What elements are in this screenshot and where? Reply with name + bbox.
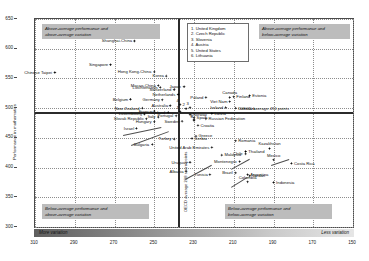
data-point-label: Sweden: [164, 119, 179, 124]
data-point-marker: [244, 152, 247, 155]
data-point-label: Netherlands: [153, 92, 176, 97]
data-point-label: Viet Nam: [210, 99, 227, 104]
data-point-label: Russian Federation: [209, 116, 246, 121]
data-point-marker: [228, 96, 231, 99]
data-point-marker: [232, 95, 235, 98]
gridline-vertical: [353, 19, 354, 227]
y-tick: 400: [0, 164, 13, 169]
gridline-horizontal: [35, 78, 353, 79]
less-variation-label: Less variation: [321, 230, 349, 235]
data-point-marker: [109, 63, 112, 66]
data-point-label: Indonesia: [276, 180, 294, 185]
data-point-label: Chile: [233, 151, 243, 156]
data-point-number: 3: [186, 101, 188, 106]
data-point-label: Australia: [152, 103, 168, 108]
y-tick: 300: [0, 224, 13, 229]
data-point-marker: [246, 180, 249, 183]
data-point-label: Estonia: [252, 93, 266, 98]
x-tick: 190: [261, 240, 285, 245]
data-point-label: Kazakhstan: [259, 141, 281, 146]
x-tick: 310: [22, 240, 46, 245]
gridline-horizontal: [35, 197, 353, 198]
data-point-label: Chinese Taipei: [24, 70, 52, 75]
data-point-label: Costa Rica: [294, 161, 315, 166]
data-point-label: Shanghai-China: [102, 38, 132, 43]
data-point-marker: [220, 153, 223, 156]
gridline-horizontal: [35, 168, 353, 169]
quadrant-top-right: Above-average performance and below-aver…: [259, 24, 350, 39]
data-point-label: Albania: [169, 169, 183, 174]
data-point-label: Denmark: [238, 106, 255, 111]
data-point-label: Iceland: [152, 110, 166, 115]
data-point-label: United Arab Emirates: [169, 145, 209, 150]
x-tick: 210: [221, 240, 245, 245]
y-axis-title: Performance in mathematics: [12, 104, 17, 160]
data-point-label: Korea: [153, 73, 164, 78]
data-point-label: Romania: [238, 138, 255, 143]
plot-area: OECD average 494 points OECD average 238…: [34, 18, 354, 228]
data-point-marker: [133, 39, 136, 42]
quadrant-bottom-right: Below-average performance and below-aver…: [225, 204, 332, 219]
data-point-marker: [129, 98, 132, 101]
y-tick: 550: [0, 75, 13, 80]
data-point-marker: [268, 147, 271, 150]
data-point-number: 1: [176, 105, 178, 110]
data-point-label: Serbia: [195, 136, 207, 141]
numbered-legend: 1. United Kingdom 2. Czech Republic 3. S…: [187, 23, 249, 62]
data-point-marker: [228, 100, 231, 103]
data-point-label: Finland: [236, 94, 250, 99]
data-point-marker: [196, 124, 199, 127]
data-point-marker: [204, 96, 207, 99]
data-point-label: Thailand: [248, 149, 264, 154]
x-tick: 150: [340, 240, 364, 245]
more-variation-label: More variation: [39, 230, 68, 235]
data-point-marker: [210, 146, 213, 149]
y-tick: 500: [0, 105, 13, 110]
data-point-label: Hong Kong-China: [118, 69, 152, 74]
gridline-vertical: [313, 19, 314, 227]
data-point-marker: [168, 104, 171, 107]
data-point-marker: [164, 74, 167, 77]
data-point-label: Croatia: [201, 123, 215, 128]
data-point-number: 4: [176, 98, 178, 103]
data-point-label: Montenegro: [214, 159, 237, 164]
quadrant-top-left: Above-average performance and above-aver…: [42, 24, 160, 39]
data-point-number: 2: [182, 102, 184, 107]
gridline-vertical: [75, 19, 76, 227]
x-tick: 290: [62, 240, 86, 245]
data-point-label: Turkey: [159, 136, 172, 141]
data-point-marker: [272, 158, 275, 161]
data-point-number: 6: [190, 114, 192, 119]
y-tick: 650: [0, 16, 13, 21]
data-point-label: Hungary: [136, 119, 152, 124]
gridline-horizontal: [35, 19, 353, 20]
x-tick: 230: [181, 240, 205, 245]
quadrant-bottom-left: Below-average performance and above-aver…: [42, 204, 149, 219]
data-point-label: Singapore: [89, 62, 108, 67]
y-tick: 600: [0, 45, 13, 50]
data-point-label: Canada: [222, 90, 237, 95]
x-tick: 170: [300, 240, 324, 245]
data-point-label: Norway: [193, 112, 207, 117]
data-point-marker: [53, 71, 56, 74]
data-point-marker: [135, 127, 138, 130]
variation-gradient-band: More variation Less variation: [34, 229, 354, 237]
data-point-label: Liechtenstein: [133, 85, 158, 90]
data-point-label: Israel: [124, 126, 134, 131]
y-tick: 450: [0, 134, 13, 139]
data-point-marker: [208, 173, 211, 176]
gridline-vertical: [274, 19, 275, 227]
data-point-marker: [180, 120, 183, 123]
data-point-label: Latvia: [214, 111, 225, 116]
data-point-label: Uruguay: [171, 160, 187, 165]
data-point-marker: [153, 120, 156, 123]
gridline-horizontal: [35, 227, 353, 228]
data-point-marker: [182, 85, 185, 88]
data-point-marker: [272, 181, 275, 184]
x-tick: 250: [141, 240, 165, 245]
scatter-chart: Performance in mathematics 6506005505004…: [0, 0, 369, 261]
data-point-label: Luxembourg: [119, 111, 142, 116]
data-point-label: Poland: [190, 95, 203, 100]
data-point-label: Belgium: [113, 97, 128, 102]
data-point-label: New Zealand: [115, 106, 140, 111]
